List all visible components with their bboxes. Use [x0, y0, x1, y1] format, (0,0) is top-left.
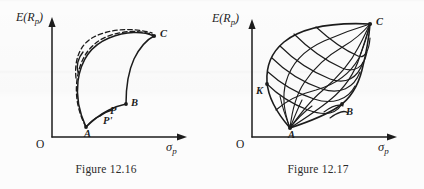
y-axis-label: E(Rp): [212, 12, 239, 26]
point-dot-B: [124, 102, 128, 106]
arc-B-to-C: [126, 36, 154, 104]
point-dot-B: [340, 102, 344, 106]
point-dot-C: [152, 34, 156, 38]
point-label-c: C: [376, 17, 383, 28]
point-label-c: C: [160, 29, 167, 40]
figure-12-17: E(Rp) σp O A B C K Figure 12.17: [212, 0, 424, 189]
x-axis-arrowhead: [177, 133, 187, 140]
origin-label: O: [36, 139, 44, 151]
figure-caption-12-17: Figure 12.17: [212, 163, 424, 175]
point-label-b: B: [346, 107, 353, 118]
x-axis-arrowhead: [387, 133, 397, 140]
mesh-arc-2: [268, 72, 355, 101]
x-axis-label: σp: [378, 141, 389, 156]
point-label-p-prime: P': [103, 116, 112, 127]
figure-12-16: E(Rp) σp O A B C P P' Figure 12.16: [0, 0, 212, 189]
y-axis-arrowhead: [48, 17, 55, 27]
y-axis-label: E(Rp): [16, 11, 43, 25]
point-label-k: K: [256, 86, 263, 97]
point-label-b: B: [131, 98, 138, 109]
origin-label: O: [236, 139, 244, 151]
point-dot-K: [265, 82, 269, 86]
x-axis-label: σp: [166, 141, 177, 156]
point-label-a: A: [288, 130, 295, 141]
figure-page: E(Rp) σp O A B C P P' Figure 12.16: [0, 0, 424, 189]
point-dot-C: [368, 22, 372, 26]
point-label-a: A: [84, 129, 91, 140]
y-axis-arrowhead: [248, 19, 255, 29]
figure-caption-12-16: Figure 12.16: [0, 163, 212, 175]
